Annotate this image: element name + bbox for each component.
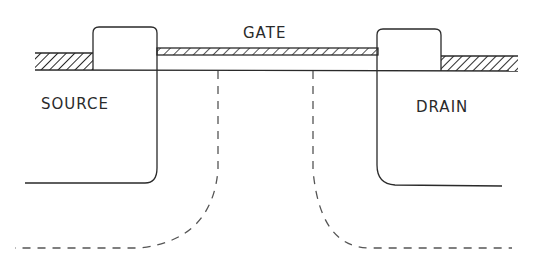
drain-region-boundary xyxy=(377,71,502,186)
right-field-oxide xyxy=(441,56,518,71)
gate-label: GATE xyxy=(243,24,286,42)
drain-contact xyxy=(377,29,441,71)
left-field-oxide xyxy=(35,53,93,70)
drain-label: DRAIN xyxy=(416,98,468,116)
gate-oxide xyxy=(157,48,378,55)
source-label: SOURCE xyxy=(41,95,109,113)
drain-depletion-boundary xyxy=(313,71,512,248)
source-region-boundary xyxy=(25,70,157,183)
source-contact xyxy=(93,27,157,70)
